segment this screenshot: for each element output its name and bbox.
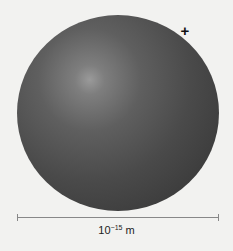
nucleus-sphere <box>17 15 219 211</box>
scale-base: 10 <box>98 224 110 236</box>
plus-charge-icon: + <box>179 25 191 37</box>
scale-label: 10−15 m <box>0 224 233 236</box>
scale-exponent: −15 <box>111 224 123 231</box>
scale-bar-right-tick <box>218 214 219 221</box>
scale-bar <box>17 217 219 218</box>
scale-bar-left-tick <box>17 214 18 221</box>
scale-unit: m <box>126 224 135 236</box>
